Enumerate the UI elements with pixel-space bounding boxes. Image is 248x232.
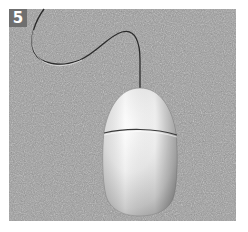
mouse-cable-icon — [32, 9, 140, 89]
step-number-badge: 5 — [9, 9, 27, 27]
mouse-icon — [103, 88, 178, 216]
mouse-illustration — [0, 0, 248, 232]
